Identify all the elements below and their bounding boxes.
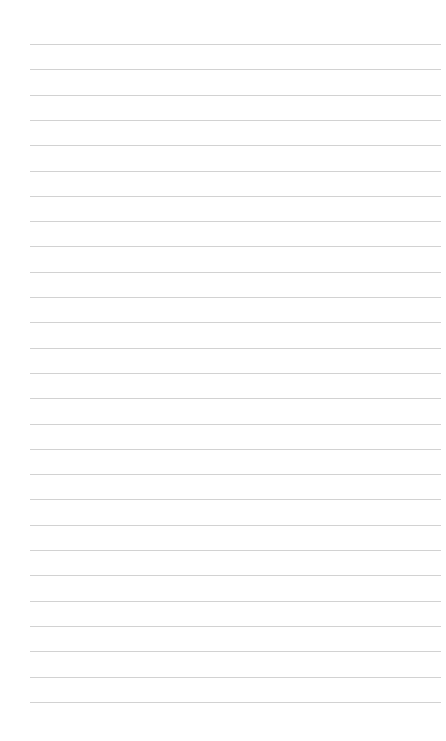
ruled-line: [30, 297, 441, 298]
ruled-line: [30, 651, 441, 652]
ruled-line: [30, 398, 441, 399]
ruled-line: [30, 272, 441, 273]
ruled-line: [30, 44, 441, 45]
ruled-line: [30, 373, 441, 374]
ruled-line: [30, 322, 441, 323]
ruled-line: [30, 601, 441, 602]
ruled-line: [30, 69, 441, 70]
ruled-line: [30, 246, 441, 247]
ruled-line: [30, 145, 441, 146]
ruled-line: [30, 449, 441, 450]
ruled-line: [30, 196, 441, 197]
ruled-line: [30, 424, 441, 425]
ruled-line: [30, 348, 441, 349]
ruled-line: [30, 171, 441, 172]
ruled-line: [30, 677, 441, 678]
ruled-line: [30, 499, 441, 500]
ruled-line: [30, 95, 441, 96]
ruled-line: [30, 575, 441, 576]
ruled-line: [30, 120, 441, 121]
ruled-line: [30, 702, 441, 703]
ruled-line: [30, 525, 441, 526]
ruled-line: [30, 474, 441, 475]
lined-paper-page: [0, 0, 446, 741]
ruled-line: [30, 626, 441, 627]
ruled-line: [30, 550, 441, 551]
ruled-line: [30, 221, 441, 222]
